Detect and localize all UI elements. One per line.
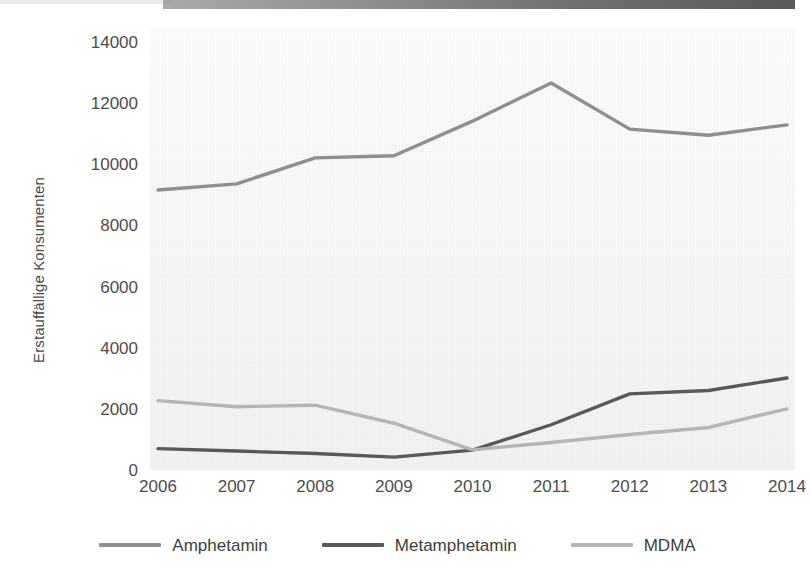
x-axis-tick-2009: 2009 — [354, 478, 434, 495]
y-axis-tick-4000: 4000 — [38, 340, 138, 357]
x-axis-tick-2006: 2006 — [118, 478, 198, 495]
legend-item-metamphetamin[interactable]: Metamphetamin — [322, 537, 517, 554]
chart-legend: AmphetaminMetamphetaminMDMA — [0, 528, 795, 562]
x-axis-tick-2011: 2011 — [511, 478, 591, 495]
y-axis-tick-8000: 8000 — [38, 217, 138, 234]
legend-swatch-mdma — [571, 543, 633, 547]
x-axis-tick-2012: 2012 — [590, 478, 670, 495]
legend-label-metamphetamin: Metamphetamin — [395, 537, 517, 554]
y-axis-tick-labels: 14000120001000080006000400020000 — [28, 0, 138, 583]
legend-item-amphetamin[interactable]: Amphetamin — [99, 537, 267, 554]
legend-label-mdma: MDMA — [644, 537, 696, 554]
y-axis-tick-6000: 6000 — [38, 279, 138, 296]
x-axis-tick-2010: 2010 — [433, 478, 513, 495]
legend-label-amphetamin: Amphetamin — [172, 537, 267, 554]
y-axis-tick-2000: 2000 — [38, 401, 138, 418]
x-axis-tick-2014: 2014 — [747, 478, 811, 495]
plot-area — [150, 28, 795, 470]
x-axis-tick-labels: 200620072008200920102011201220132014 — [150, 478, 795, 506]
x-axis-tick-2007: 2007 — [197, 478, 277, 495]
y-axis-tick-14000: 14000 — [38, 34, 138, 51]
series-line-metamphetamin — [158, 378, 787, 457]
legend-swatch-metamphetamin — [322, 543, 384, 547]
y-axis-tick-10000: 10000 — [38, 156, 138, 173]
x-axis-tick-2008: 2008 — [275, 478, 355, 495]
x-axis-tick-2013: 2013 — [668, 478, 748, 495]
plot-lines — [150, 28, 795, 470]
legend-item-mdma[interactable]: MDMA — [571, 537, 696, 554]
y-axis-tick-0: 0 — [38, 462, 138, 479]
series-line-amphetamin — [158, 83, 787, 190]
y-axis-tick-12000: 12000 — [38, 95, 138, 112]
series-line-mdma — [158, 401, 787, 450]
legend-swatch-amphetamin — [99, 543, 161, 547]
